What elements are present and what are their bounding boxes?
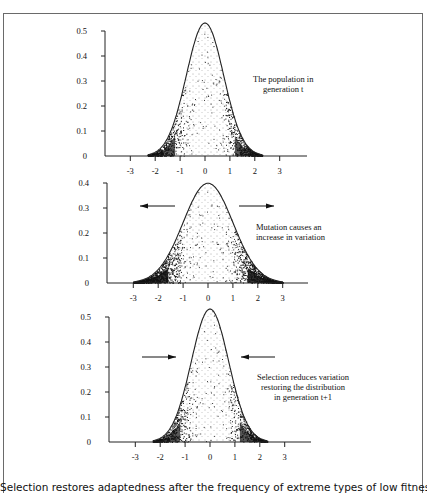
annotation-line: restoring the distribution: [257, 382, 349, 392]
x-tick-label: -1: [177, 166, 184, 176]
annotation-line: Mutation causes an: [256, 222, 325, 232]
figure-caption: Selection restores adaptedness after the…: [0, 481, 427, 493]
y-tick-label: 0.2: [76, 101, 87, 111]
x-tick-label: 1: [228, 166, 232, 176]
x-tick-label: -3: [130, 293, 137, 303]
figure-plots: 00.10.20.30.40.5-3-2-1012300.10.20.30.4-…: [0, 0, 427, 493]
arrow-right-icon: [239, 203, 274, 208]
x-tick-label: 0: [206, 293, 210, 303]
x-tick-label: 3: [281, 293, 285, 303]
panel-2-annotation: Mutation causes an increase in variation: [256, 222, 325, 242]
x-tick-label: -3: [127, 166, 134, 176]
y-tick-label: 0.3: [76, 76, 87, 86]
y-tick-label: 0.3: [78, 203, 89, 213]
y-tick-label: 0.1: [80, 412, 91, 422]
x-tick-label: -1: [182, 452, 189, 462]
x-tick-label: -2: [152, 166, 159, 176]
y-tick-label: 0.4: [80, 337, 91, 347]
density-fill: [153, 309, 268, 442]
annotation-line: generation t: [253, 84, 313, 94]
annotation-line: in generation t+1: [257, 392, 349, 402]
y-tick-label: 0.1: [78, 253, 89, 263]
panel-1-annotation: The population in generation t: [253, 74, 313, 94]
annotation-line: increase in variation: [256, 232, 325, 242]
x-tick-label: 1: [231, 293, 235, 303]
y-tick-label: 0.5: [76, 26, 87, 36]
x-tick-label: -2: [157, 452, 164, 462]
y-tick-label: 0.2: [80, 387, 91, 397]
y-tick-label: 0: [87, 437, 91, 447]
y-tick-label: 0.2: [78, 228, 89, 238]
arrow-left-icon: [241, 354, 275, 359]
arrow-left-icon: [140, 203, 175, 208]
x-tick-label: -3: [132, 452, 139, 462]
panel-3-annotation: Selection reduces variation restoring th…: [257, 372, 349, 402]
x-tick-label: 2: [258, 452, 262, 462]
y-tick-label: 0: [83, 151, 87, 161]
x-tick-label: 3: [283, 452, 287, 462]
x-tick-label: -2: [155, 293, 162, 303]
y-tick-label: 0.5: [80, 312, 91, 322]
panel-1: 00.10.20.30.40.5-3-2-10123: [76, 23, 307, 176]
x-tick-label: 3: [278, 166, 282, 176]
x-tick-label: 0: [208, 452, 212, 462]
y-tick-label: 0.4: [76, 51, 87, 61]
x-tick-label: 1: [233, 452, 237, 462]
x-tick-label: 2: [253, 166, 257, 176]
arrow-right-icon: [142, 354, 176, 359]
y-tick-label: 0.4: [78, 178, 89, 188]
y-tick-label: 0.3: [80, 362, 91, 372]
density-fill: [148, 23, 263, 156]
annotation-line: The population in: [253, 74, 313, 84]
x-tick-label: -1: [180, 293, 187, 303]
x-tick-label: 0: [203, 166, 207, 176]
y-tick-label: 0: [85, 278, 89, 288]
x-tick-label: 2: [256, 293, 260, 303]
y-tick-label: 0.1: [76, 126, 87, 136]
annotation-line: Selection reduces variation: [257, 372, 349, 382]
